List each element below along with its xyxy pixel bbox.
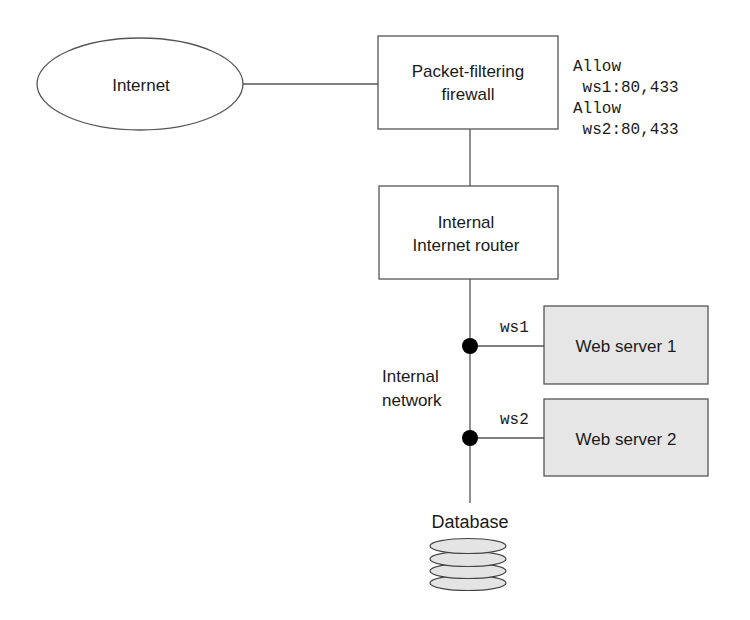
firewall-label-line-1: Packet-filtering (412, 62, 524, 81)
firewall-node: Packet-filtering firewall (378, 36, 558, 129)
router-label-line-2: Internet router (413, 236, 520, 255)
internet-label: Internet (112, 76, 170, 95)
ws2-junction-dot (462, 430, 478, 446)
web-server-1-node: Web server 1 (544, 306, 708, 384)
rule-line-4: ws2:80,433 (573, 121, 679, 139)
rule-line-1: Allow (573, 58, 621, 76)
router-label-line-1: Internal (438, 213, 495, 232)
router-node: Internal Internet router (379, 186, 558, 279)
internet-node: Internet (37, 38, 243, 130)
ws2-link-label: ws2 (500, 411, 529, 429)
web-server-2-label: Web server 2 (576, 430, 677, 449)
web-server-1-label: Web server 1 (576, 337, 677, 356)
firewall-label-line-2: firewall (442, 85, 495, 104)
network-label-line-1: Internal (382, 367, 439, 386)
ws1-link-label: ws1 (500, 319, 529, 337)
firewall-rules: Allow ws1:80,433 Allow ws2:80,433 (573, 58, 679, 139)
database-disk-stack-icon (430, 539, 506, 591)
rule-line-3: Allow (573, 100, 621, 118)
network-diagram: Internet Packet-filtering firewall Allow… (0, 0, 750, 620)
database-node: Database (430, 512, 509, 591)
database-label: Database (431, 512, 508, 532)
ws1-junction-dot (462, 338, 478, 354)
web-server-2-node: Web server 2 (544, 399, 708, 476)
network-label-line-2: network (382, 391, 442, 410)
rule-line-2: ws1:80,433 (573, 79, 679, 97)
